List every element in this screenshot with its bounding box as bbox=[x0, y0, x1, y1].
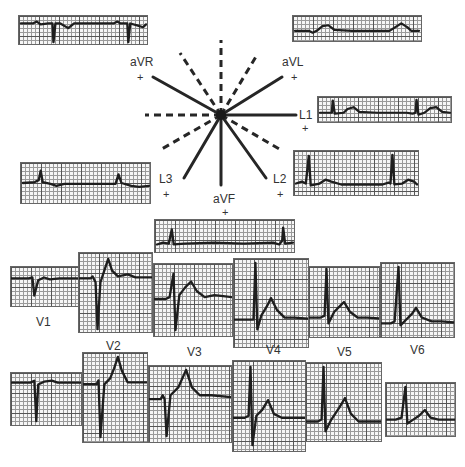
ecg-strip-L1 bbox=[317, 96, 452, 123]
ecg-strip-V1-second bbox=[10, 372, 82, 426]
label-aVR: aVR bbox=[130, 56, 153, 68]
ecg-strip-V5 bbox=[308, 266, 380, 338]
ecg-strip-V6 bbox=[380, 262, 455, 338]
axis-aVL bbox=[221, 77, 282, 115]
plus-aVL: + bbox=[291, 72, 297, 83]
label-aVF: aVF bbox=[213, 193, 235, 205]
plus-aVR: + bbox=[137, 72, 143, 83]
plus-L3: + bbox=[163, 189, 169, 200]
ecg-strip-V2-second bbox=[82, 352, 148, 443]
ecg-strip-V5-second bbox=[305, 362, 382, 442]
ecg-strip-V4-second bbox=[232, 360, 306, 452]
ecg-strip-aVF bbox=[154, 219, 295, 253]
ecg-strip-V6-second bbox=[385, 382, 456, 437]
label-V3: V3 bbox=[187, 346, 202, 358]
axis-L2-negative bbox=[180, 53, 221, 115]
ecg-strip-V1 bbox=[10, 266, 80, 307]
label-V6: V6 bbox=[410, 344, 425, 356]
label-L1: L1 bbox=[299, 109, 312, 121]
ecg-strip-L3 bbox=[20, 162, 151, 204]
axis-aVL-negative bbox=[160, 115, 221, 150]
ecg-strip-L2 bbox=[293, 150, 419, 196]
ecg-strip-aVR bbox=[18, 15, 148, 45]
plus-aVF: + bbox=[222, 207, 228, 218]
ecg-strip-V4 bbox=[233, 258, 309, 348]
ecg-strip-V2 bbox=[78, 252, 153, 333]
axis-L3 bbox=[184, 115, 221, 178]
label-V2: V2 bbox=[106, 340, 121, 352]
label-L3: L3 bbox=[159, 173, 172, 185]
axis-L2 bbox=[221, 115, 266, 178]
plus-L1: + bbox=[302, 123, 308, 134]
ecg-strip-V3-second bbox=[148, 365, 232, 443]
label-V1: V1 bbox=[36, 316, 51, 328]
axis-aVR-negative bbox=[221, 115, 281, 150]
axis-aVR bbox=[153, 77, 221, 115]
label-L2: L2 bbox=[273, 173, 286, 185]
axis-L3-negative bbox=[221, 55, 257, 115]
label-aVL: aVL bbox=[282, 56, 303, 68]
label-V5: V5 bbox=[337, 346, 352, 358]
label-V4: V4 bbox=[266, 344, 281, 356]
ecg-strip-aVL bbox=[292, 15, 422, 42]
plus-L2: + bbox=[277, 189, 283, 200]
ecg-strip-V3 bbox=[153, 263, 233, 337]
